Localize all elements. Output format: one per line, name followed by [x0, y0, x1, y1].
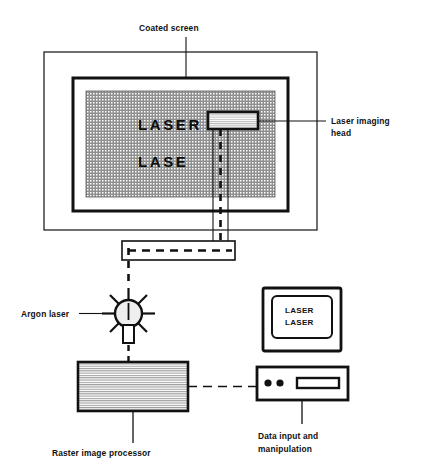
diagram-background: [0, 0, 423, 475]
label-laser-imaging-head-line1: Laser imaging: [331, 116, 390, 126]
coated-screen-area: [86, 91, 275, 197]
label-argon-laser: Argon laser: [21, 309, 70, 319]
monitor-text-line-1: LASER: [285, 306, 314, 315]
label-raster-image-processor: Raster image processor: [52, 448, 151, 458]
disk-drive-slot[interactable]: [297, 378, 339, 388]
screen-text-line-2: LASE: [138, 153, 188, 170]
monitor-text-line-2: LASER: [285, 318, 314, 327]
laser-imaging-head: [208, 112, 258, 129]
computer-button-1[interactable]: [264, 379, 271, 386]
monitor-screen: [272, 296, 332, 338]
label-laser-imaging-head-line2: head: [331, 128, 351, 138]
raster-image-processor: [78, 362, 188, 411]
screen-text-line-1: LASER: [138, 116, 202, 133]
label-data-input-line1: Data input and: [258, 431, 318, 441]
label-data-input-line2: manipulation: [258, 444, 312, 454]
laser-imaging-system-diagram: Coated screen LASER LASE Laser imaging h…: [0, 0, 423, 475]
laser-nozzle: [123, 325, 134, 343]
computer-button-2[interactable]: [276, 379, 283, 386]
label-coated-screen: Coated screen: [139, 23, 199, 33]
